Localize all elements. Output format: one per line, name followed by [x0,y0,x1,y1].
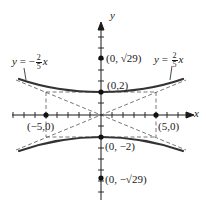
point-vertex-top [98,89,103,94]
x-axis-arrow-icon [186,112,194,118]
point-focus-bottom [98,175,103,180]
y-axis-label: y [110,10,115,21]
label-co-vertex-left: (−5,0) [27,121,54,132]
x-axis-label: x [194,108,199,119]
point-focus-top [98,55,103,60]
point-vertex-bottom [98,134,103,139]
graph-canvas [0,0,206,218]
asymptote-positive-label: y = 25x [154,52,184,69]
label-focus-bottom: (0, −√29) [105,174,147,185]
point-co-vertex-right [153,112,158,117]
label-co-vertex-right: (5,0) [158,121,179,132]
asymptote-pos-x: x [179,53,184,65]
axes [12,22,194,200]
label-vertex-bottom: (0, −2) [105,141,135,152]
point-co-vertex-left [43,112,48,117]
y-axis-arrow-icon [98,22,104,30]
asymptote-negative-label: y = −25x [12,54,48,71]
asymptote-neg-den: 5 [36,63,42,71]
asymptote-neg-fraction: 25 [36,54,42,71]
asymptote-neg-y: y [12,55,17,67]
asymptote-neg-sign: − [29,55,35,67]
asymptote-pos-fraction: 25 [172,52,178,69]
asymptote-neg-x: x [43,55,48,67]
label-vertex-top: (0,2) [107,80,128,91]
hyperbola-figure: y x y = −25x y = 25x (0, √29) (0,2) (−5,… [0,0,206,218]
asymptote-pos-eq: = [162,53,168,65]
asymptote-pos-y: y [154,53,159,65]
asymptote-neg-eq: = [20,55,26,67]
asymptote-pos-den: 5 [172,61,178,69]
label-focus-top: (0, √29) [106,53,141,64]
